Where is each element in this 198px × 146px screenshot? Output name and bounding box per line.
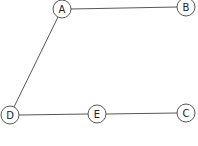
node-d-label: D	[6, 110, 14, 121]
node-a-label: A	[59, 4, 66, 15]
node-c[interactable]: C	[177, 104, 195, 122]
graph-diagram: A B C D E	[0, 0, 198, 146]
edges	[14, 7, 177, 115]
node-e-label: E	[94, 109, 100, 120]
node-a[interactable]: A	[53, 0, 71, 18]
node-c-label: C	[183, 108, 190, 119]
edge-e-c	[106, 113, 177, 114]
node-b[interactable]: B	[177, 0, 195, 16]
node-d[interactable]: D	[1, 106, 19, 124]
nodes: A B C D E	[1, 0, 195, 124]
edge-d-e	[19, 114, 88, 115]
node-b-label: B	[183, 2, 190, 13]
edge-a-d	[14, 17, 58, 107]
edge-a-b	[71, 7, 177, 9]
node-e[interactable]: E	[88, 105, 106, 123]
